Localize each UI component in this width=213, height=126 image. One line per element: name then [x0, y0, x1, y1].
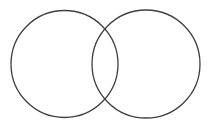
figure-canvas — [0, 0, 213, 126]
venn-diagram-svg — [0, 0, 213, 126]
